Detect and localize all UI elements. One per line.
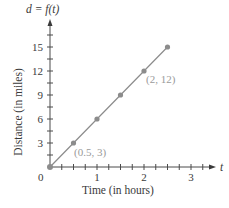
data-point (165, 44, 170, 49)
distance-time-chart: 1233691215 d = f(t) t 0 Time (in hours) … (0, 0, 229, 208)
x-variable-label: t (220, 161, 224, 173)
axes (48, 19, 217, 170)
plot-area (47, 44, 170, 170)
tick-labels: 1233691215 (32, 41, 194, 183)
x-tick-label: 2 (141, 171, 147, 183)
data-point (71, 140, 76, 145)
y-tick-label: 15 (32, 41, 44, 53)
x-axis-arrow-icon (209, 165, 216, 170)
series-line (50, 47, 168, 167)
y-axis-title: Distance (in miles) (12, 68, 25, 156)
point-annotation-0.5-3: (0.5, 3) (74, 146, 106, 159)
y-tick-label: 12 (32, 65, 43, 77)
data-point (47, 164, 53, 170)
x-axis-title: Time (in hours) (82, 184, 154, 197)
function-label: d = f(t) (26, 3, 59, 16)
data-point (94, 116, 99, 121)
y-tick-label: 6 (38, 113, 44, 125)
y-tick-label: 9 (38, 89, 44, 101)
x-tick-label: 3 (188, 171, 194, 183)
data-point (118, 92, 123, 97)
point-annotation-2-12: (2, 12) (146, 73, 176, 86)
ticks (47, 35, 203, 170)
y-tick-label: 3 (38, 137, 44, 149)
x-tick-label: 1 (94, 171, 100, 183)
y-axis-arrow-icon (48, 19, 53, 26)
origin-label: 0 (38, 171, 44, 183)
